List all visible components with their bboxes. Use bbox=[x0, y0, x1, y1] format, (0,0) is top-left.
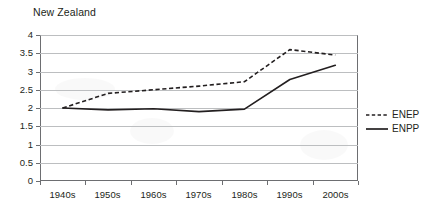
legend-item-enep: ENEP bbox=[366, 108, 434, 122]
y-tick-mark bbox=[36, 145, 40, 146]
chart-legend: ENEP ENPP bbox=[366, 108, 434, 136]
x-tick-label: 1950s bbox=[85, 189, 130, 200]
y-tick-mark bbox=[36, 126, 40, 127]
x-tick-mark bbox=[267, 181, 268, 185]
x-tick-mark bbox=[222, 181, 223, 185]
y-tick-label: 0 bbox=[0, 176, 33, 186]
x-tick-mark bbox=[40, 181, 41, 185]
legend-label-enpp: ENPP bbox=[392, 123, 419, 135]
x-tick-mark bbox=[85, 181, 86, 185]
series-line-enpp bbox=[63, 65, 336, 111]
legend-item-enpp: ENPP bbox=[366, 122, 434, 136]
x-tick-mark bbox=[176, 181, 177, 185]
dashed-line-icon bbox=[366, 110, 388, 120]
y-tick-mark bbox=[36, 53, 40, 54]
x-tick-label: 2000s bbox=[313, 189, 358, 200]
y-tick-label: 1.5 bbox=[0, 121, 33, 131]
y-tick-mark bbox=[36, 163, 40, 164]
chart-title: New Zealand bbox=[33, 6, 96, 19]
series-layer bbox=[40, 35, 358, 181]
x-tick-label: 1960s bbox=[131, 189, 176, 200]
x-tick-mark bbox=[131, 181, 132, 185]
y-tick-mark bbox=[36, 90, 40, 91]
x-tick-label: 1940s bbox=[40, 189, 85, 200]
y-tick-label: 0.5 bbox=[0, 158, 33, 168]
y-tick-mark bbox=[36, 72, 40, 73]
y-tick-label: 4 bbox=[0, 30, 33, 40]
y-tick-label: 2 bbox=[0, 103, 33, 113]
y-tick-label: 3 bbox=[0, 67, 33, 77]
solid-line-icon bbox=[366, 124, 388, 134]
plot-area bbox=[40, 35, 358, 181]
y-tick-mark bbox=[36, 35, 40, 36]
y-tick-label: 3.5 bbox=[0, 48, 33, 58]
legend-label-enep: ENEP bbox=[392, 109, 419, 121]
x-tick-label: 1970s bbox=[176, 189, 221, 200]
x-tick-label: 1990s bbox=[267, 189, 312, 200]
chart-figure: New Zealand 00.511.522.533.54 1940s1950s… bbox=[0, 0, 436, 217]
x-tick-label: 1980s bbox=[222, 189, 267, 200]
y-tick-label: 1 bbox=[0, 140, 33, 150]
x-tick-mark bbox=[358, 181, 359, 185]
y-tick-mark bbox=[36, 108, 40, 109]
y-tick-label: 2.5 bbox=[0, 85, 33, 95]
x-tick-mark bbox=[313, 181, 314, 185]
